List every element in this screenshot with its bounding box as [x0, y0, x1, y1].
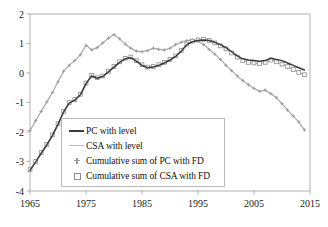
legend-item-label: Cumulative sum of PC with FD	[86, 156, 204, 166]
legend-item-label: Cumulative sum of CSA with FD	[86, 171, 210, 181]
legend-item-label: PC with level	[86, 126, 136, 136]
svg-text:2005: 2005	[244, 198, 264, 209]
legend-item: PC with level	[68, 123, 224, 138]
gray-line-icon	[68, 140, 86, 152]
svg-text:1995: 1995	[188, 198, 208, 209]
chart-legend: PC with level CSA with level Cumulative …	[61, 118, 225, 187]
svg-text:1985: 1985	[132, 198, 152, 209]
open-square-marker-icon	[68, 170, 86, 182]
legend-item: CSA with level	[68, 138, 224, 153]
svg-text:1975: 1975	[76, 198, 96, 209]
plus-marker-icon	[68, 155, 86, 167]
svg-text:-4: -4	[16, 186, 24, 197]
legend-item: Cumulative sum of CSA with FD	[68, 168, 224, 183]
solid-line-icon	[68, 125, 86, 137]
x-axis-ticks	[30, 191, 310, 195]
chart-plot-area: 210-1-2-3-4 196519751985199520052015	[0, 0, 328, 227]
svg-text:0: 0	[19, 68, 24, 79]
svg-text:2: 2	[19, 9, 24, 20]
legend-item: Cumulative sum of PC with FD	[68, 153, 224, 168]
svg-text:-2: -2	[16, 127, 24, 138]
y-axis-tick-labels: 210-1-2-3-4	[16, 9, 24, 197]
svg-text:2015: 2015	[300, 198, 320, 209]
svg-text:-1: -1	[16, 97, 24, 108]
chart-container: 210-1-2-3-4 196519751985199520052015 PC …	[0, 0, 328, 227]
svg-text:1: 1	[19, 38, 24, 49]
svg-text:-3: -3	[16, 156, 24, 167]
x-axis-tick-labels: 196519751985199520052015	[20, 198, 320, 209]
legend-item-label: CSA with level	[86, 141, 143, 151]
y-axis-ticks	[27, 14, 31, 191]
svg-text:1965: 1965	[20, 198, 40, 209]
